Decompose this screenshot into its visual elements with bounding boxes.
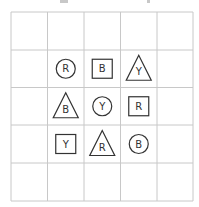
cell-letter: R	[99, 142, 106, 153]
cell-letter: Y	[135, 66, 143, 77]
grid-cell-circle-y: Y	[93, 97, 112, 116]
cell-letter: B	[99, 63, 106, 74]
grid-cell-triangle-y: Y	[126, 55, 151, 80]
grid-cell-circle-r: R	[56, 59, 75, 78]
cell-letter: B	[62, 104, 69, 115]
puzzle-grid: RBYBYRYRB	[0, 0, 199, 207]
cell-letter: R	[135, 101, 142, 112]
cell-letter: B	[135, 139, 142, 150]
grid-cell-square-b: B	[92, 59, 112, 78]
grid-cell-square-y: Y	[56, 135, 76, 154]
grid-cell-square-r: R	[129, 97, 149, 116]
cell-letter: Y	[62, 139, 70, 150]
grid-cell-circle-b: B	[129, 135, 148, 154]
grid-cell-triangle-b: B	[53, 93, 78, 118]
cell-letter: Y	[98, 101, 106, 112]
grid-cell-triangle-r: R	[90, 131, 115, 156]
cell-letter: R	[62, 63, 69, 74]
